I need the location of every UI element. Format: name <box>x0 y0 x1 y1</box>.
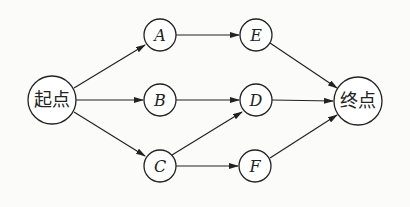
node-E-label: E <box>249 26 262 45</box>
node-E: E <box>240 19 272 51</box>
node-D: D <box>240 84 272 116</box>
node-A: A <box>144 19 176 51</box>
node-start: 起点 <box>28 76 76 124</box>
node-A-label: A <box>152 26 166 45</box>
node-end-label: 终点 <box>340 90 376 111</box>
node-D-label: D <box>249 91 263 110</box>
edge-E-end <box>270 43 337 88</box>
edge-start-A <box>74 45 145 88</box>
node-F-label: F <box>248 157 261 176</box>
edges <box>74 35 337 166</box>
node-B: B <box>144 84 176 116</box>
node-end: 终点 <box>334 77 382 125</box>
edge-D-end <box>272 100 333 101</box>
node-start-label: 起点 <box>34 89 70 110</box>
edge-start-C <box>74 112 145 156</box>
node-F: F <box>239 150 271 182</box>
edge-F-end <box>270 115 337 158</box>
graph-diagram: 起点 A B C E D F 终点 <box>0 0 410 207</box>
edge-C-D <box>172 112 242 155</box>
node-C: C <box>144 150 176 182</box>
node-C-label: C <box>154 157 166 176</box>
node-B-label: B <box>153 91 166 110</box>
